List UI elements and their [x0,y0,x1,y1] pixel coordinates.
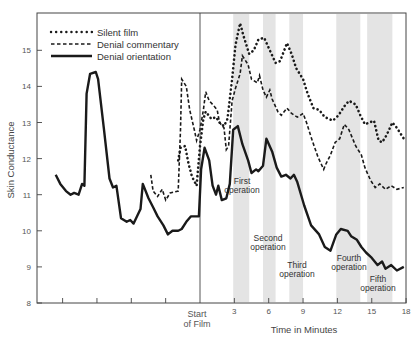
operation-label: operation [331,262,367,272]
start-label-line2: of Film [184,319,211,329]
operation-label: operation [250,242,286,252]
x-tick-label: 15 [367,307,376,316]
x-tick-label: 12 [333,307,342,316]
legend-label-silent-film: Silent film [97,27,138,38]
x-axis-title: Time in Minutes [271,324,338,335]
y-tick-label: 12 [22,155,31,164]
x-tick-label: 6 [266,307,271,316]
legend-label-denial-orientation: Denial orientation [97,51,171,62]
legend-label-denial-commentary: Denial commentary [97,39,179,50]
y-tick-label: 8 [27,299,32,308]
y-tick-label: 9 [27,263,32,272]
y-tick-label: 13 [22,119,31,128]
skin-conductance-chart: FirstoperationSecondoperationThirdoperat… [0,0,420,338]
y-tick-label: 15 [22,46,31,55]
y-tick-label: 11 [23,191,32,200]
y-axis-ticks: 89101112131415 [22,46,42,308]
operation-label: operation [279,269,315,279]
y-tick-label: 14 [22,82,31,91]
operation-band [367,14,392,302]
x-tick-label: 3 [232,307,237,316]
operation-label: operation [360,283,396,293]
x-tick-label: 9 [301,307,306,316]
x-tick-label: 18 [402,307,411,316]
start-label-line1: Start [187,309,207,319]
y-tick-label: 10 [22,227,31,236]
y-axis-title: Skin Conductance [5,121,16,198]
legend: Silent film Denial commentary Denial ori… [51,27,179,62]
series-denial-commentary [151,56,404,200]
operation-shaded-bands [233,14,392,302]
